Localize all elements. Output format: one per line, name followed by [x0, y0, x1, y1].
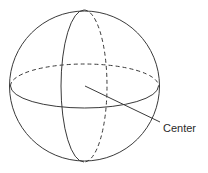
center-leader-line — [85, 86, 160, 122]
meridian-back-dashed — [84, 10, 107, 162]
sphere-diagram: Center — [0, 0, 208, 173]
equator-front-solid — [11, 86, 159, 108]
center-label: Center — [163, 122, 196, 134]
equator-back-dashed — [11, 64, 159, 86]
sphere-outline — [10, 11, 160, 161]
meridian-front-solid — [61, 10, 84, 162]
